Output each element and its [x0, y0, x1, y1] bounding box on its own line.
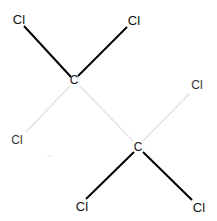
atom-c2: C — [134, 141, 143, 153]
atom-cl6: Cl — [193, 201, 205, 214]
atom-cl1: Cl — [13, 13, 25, 26]
bond-layer — [0, 0, 217, 221]
bond-c2-cl6 — [143, 152, 192, 200]
bond-c1-cl4 — [26, 86, 70, 132]
atom-c1: C — [70, 74, 79, 86]
faint-mark — [47, 155, 53, 157]
bond-c2-cl3 — [143, 93, 190, 141]
atom-cl5: Cl — [76, 200, 88, 213]
bond-c1-cl2 — [78, 27, 127, 76]
atom-cl3: Cl — [191, 79, 202, 91]
bond-c1-cl1 — [24, 26, 71, 77]
atom-cl4: Cl — [11, 134, 22, 146]
bond-c2-cl5 — [86, 152, 134, 199]
atom-cl2: Cl — [128, 14, 140, 27]
bond-c1-c2 — [79, 85, 133, 141]
